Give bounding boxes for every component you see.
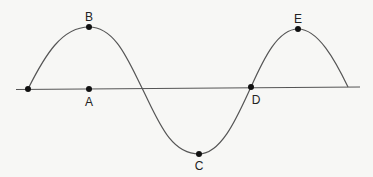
point-b xyxy=(86,24,92,30)
wave-diagram: A B C D E xyxy=(0,0,373,177)
label-a: A xyxy=(85,95,93,109)
label-b: B xyxy=(85,10,93,24)
label-e: E xyxy=(294,12,302,26)
point-a xyxy=(86,86,92,92)
label-c: C xyxy=(195,159,204,173)
point-e xyxy=(295,26,301,32)
label-d: D xyxy=(252,93,261,107)
point-c xyxy=(196,151,202,157)
wave-curve xyxy=(28,27,348,154)
point-d xyxy=(248,84,254,90)
equilibrium-axis xyxy=(16,87,360,90)
wave-start-point xyxy=(25,86,31,92)
